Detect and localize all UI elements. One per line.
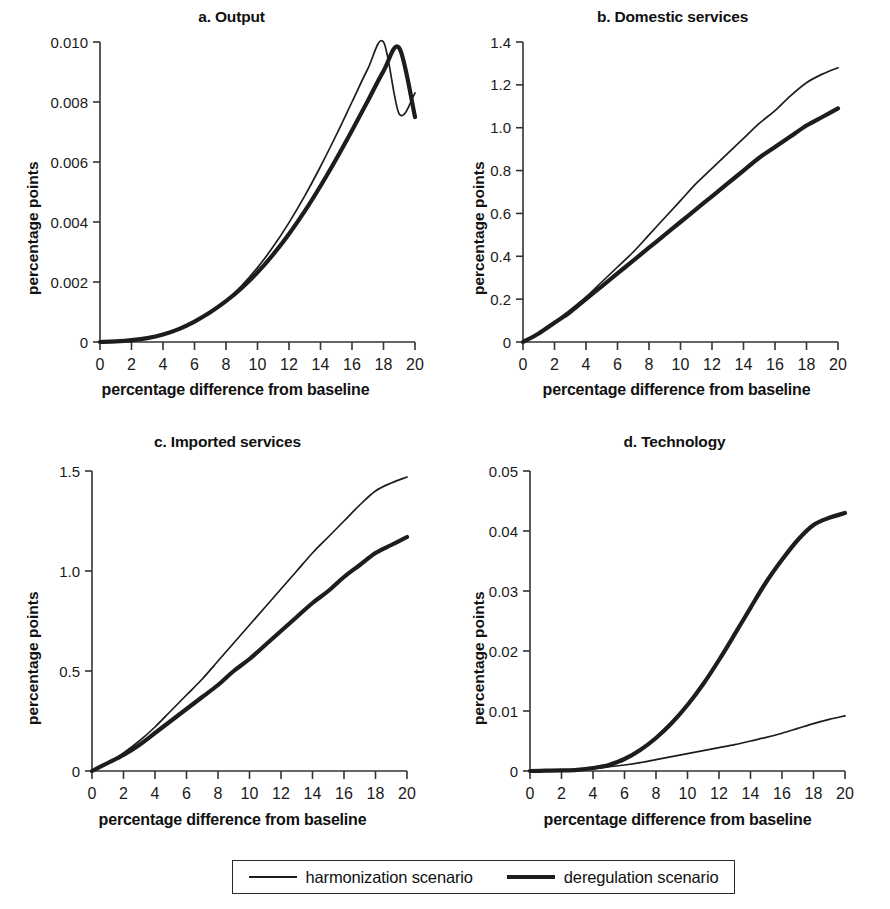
svg-text:10: 10 — [679, 785, 697, 802]
svg-text:20: 20 — [398, 785, 416, 802]
svg-text:14: 14 — [304, 785, 322, 802]
svg-text:8: 8 — [222, 356, 231, 373]
svg-text:10: 10 — [249, 356, 267, 373]
panel-d-xlabel: percentage difference from baseline — [445, 811, 890, 829]
svg-text:0.010: 0.010 — [50, 34, 88, 51]
svg-text:0.5: 0.5 — [59, 663, 80, 680]
panel-a-series-deregulation — [100, 46, 415, 342]
svg-text:0: 0 — [519, 356, 528, 373]
svg-text:18: 18 — [367, 785, 385, 802]
panel-c-imported-services: c. Imported services percentage points 0… — [0, 425, 445, 850]
svg-text:4: 4 — [582, 356, 591, 373]
svg-text:16: 16 — [343, 356, 361, 373]
svg-text:14: 14 — [312, 356, 330, 373]
panel-d-series-harmonization — [530, 716, 845, 771]
panel-c-plot: 00.51.01.5 02468101214161820 — [0, 449, 445, 809]
panel-b-domestic-services: b. Domestic services percentage points 0… — [445, 0, 890, 425]
panel-a-axes — [100, 42, 415, 342]
legend-line-thin-icon — [249, 876, 297, 878]
panel-d-curves — [530, 513, 845, 771]
svg-text:12: 12 — [272, 785, 290, 802]
svg-text:0.008: 0.008 — [50, 94, 88, 111]
panel-c-svg: 00.51.01.5 02468101214161820 — [0, 449, 445, 809]
svg-text:8: 8 — [214, 785, 223, 802]
panel-b-xlabel: percentage difference from baseline — [445, 381, 890, 399]
panel-a-plot: 00.0020.0040.0060.0080.010 0246810121416… — [0, 24, 445, 384]
svg-text:1.2: 1.2 — [490, 76, 511, 93]
svg-text:12: 12 — [710, 785, 728, 802]
svg-text:8: 8 — [645, 356, 654, 373]
svg-text:0.01: 0.01 — [489, 703, 518, 720]
svg-text:0.006: 0.006 — [50, 154, 88, 171]
panel-c-yticks: 00.51.01.5 — [59, 463, 92, 780]
legend-label-harmonization: harmonization scenario — [306, 868, 473, 887]
panel-a-series-harmonization — [100, 41, 415, 342]
svg-text:4: 4 — [151, 785, 160, 802]
legend-item-deregulation: deregulation scenario — [507, 868, 719, 887]
svg-text:0.2: 0.2 — [490, 291, 511, 308]
svg-text:0: 0 — [80, 334, 88, 351]
figure-legend: harmonization scenario deregulation scen… — [232, 860, 735, 894]
panel-d-yticks: 00.010.020.030.040.05 — [489, 463, 530, 780]
panel-a-curves — [100, 41, 415, 342]
svg-text:0: 0 — [526, 785, 535, 802]
panel-d-xticks: 02468101214161820 — [526, 771, 854, 802]
svg-text:0.6: 0.6 — [490, 205, 511, 222]
panel-a-xticks: 02468101214161820 — [96, 342, 424, 373]
svg-text:0.03: 0.03 — [489, 583, 518, 600]
svg-text:0: 0 — [88, 785, 97, 802]
panel-b-svg: 00.20.40.60.81.01.21.4 02468101214161820 — [445, 24, 890, 384]
svg-text:0.04: 0.04 — [489, 523, 518, 540]
panel-d-plot: 00.010.020.030.040.05 02468101214161820 — [445, 449, 890, 809]
legend-line-thick-icon — [507, 875, 555, 879]
panel-d-technology: d. Technology percentage points 00.010.0… — [445, 425, 890, 850]
svg-text:4: 4 — [159, 356, 168, 373]
svg-text:10: 10 — [672, 356, 690, 373]
panel-a-svg: 00.0020.0040.0060.0080.010 0246810121416… — [0, 24, 445, 384]
svg-text:1.0: 1.0 — [59, 563, 80, 580]
legend-label-deregulation: deregulation scenario — [564, 868, 719, 887]
svg-text:12: 12 — [703, 356, 721, 373]
svg-text:6: 6 — [182, 785, 191, 802]
panel-d-svg: 00.010.020.030.040.05 02468101214161820 — [445, 449, 890, 809]
panel-c-xlabel: percentage difference from baseline — [0, 811, 445, 829]
svg-text:2: 2 — [550, 356, 559, 373]
svg-text:0: 0 — [503, 334, 511, 351]
panel-b-plot: 00.20.40.60.81.01.21.4 02468101214161820 — [445, 24, 890, 384]
panel-a-xlabel: percentage difference from baseline — [0, 381, 445, 399]
svg-text:20: 20 — [406, 356, 424, 373]
panel-c-xticks: 02468101214161820 — [88, 771, 416, 802]
svg-text:0.002: 0.002 — [50, 274, 88, 291]
svg-text:1.4: 1.4 — [490, 34, 511, 51]
svg-text:1.0: 1.0 — [490, 119, 511, 136]
svg-text:10: 10 — [241, 785, 259, 802]
svg-text:0.05: 0.05 — [489, 463, 518, 480]
svg-text:4: 4 — [589, 785, 598, 802]
svg-text:0: 0 — [96, 356, 105, 373]
panel-c-series-harmonization — [92, 477, 407, 771]
svg-text:18: 18 — [798, 356, 816, 373]
svg-text:0.02: 0.02 — [489, 643, 518, 660]
svg-text:16: 16 — [335, 785, 353, 802]
legend-item-harmonization: harmonization scenario — [249, 868, 473, 887]
panel-c-series-deregulation — [92, 537, 407, 771]
svg-text:6: 6 — [613, 356, 622, 373]
panel-d-axes — [530, 471, 845, 771]
svg-text:18: 18 — [805, 785, 823, 802]
svg-text:0: 0 — [510, 763, 518, 780]
svg-text:6: 6 — [190, 356, 199, 373]
svg-text:2: 2 — [557, 785, 566, 802]
svg-text:16: 16 — [773, 785, 791, 802]
panel-b-axes — [523, 42, 838, 342]
panel-b-series-harmonization — [523, 68, 838, 342]
panel-c-axes — [92, 471, 407, 771]
svg-text:0.004: 0.004 — [50, 214, 88, 231]
svg-text:0.4: 0.4 — [490, 248, 511, 265]
panel-c-curves — [92, 477, 407, 771]
svg-text:2: 2 — [119, 785, 128, 802]
panel-a-yticks: 00.0020.0040.0060.0080.010 — [50, 34, 100, 351]
svg-text:16: 16 — [766, 356, 784, 373]
svg-text:20: 20 — [836, 785, 854, 802]
svg-text:14: 14 — [742, 785, 760, 802]
panel-b-yticks: 00.20.40.60.81.01.21.4 — [490, 34, 523, 351]
